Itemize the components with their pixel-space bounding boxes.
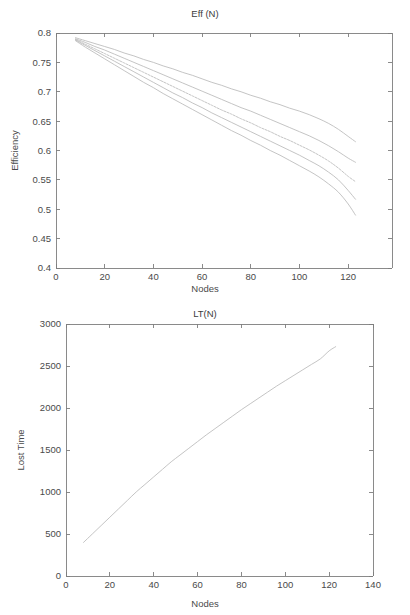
efficiency-y-axis-label: Efficiency <box>9 130 20 171</box>
y-tick-label: 500 <box>45 528 61 539</box>
y-tick-label: 0.45 <box>33 233 52 244</box>
series-curve-5 <box>75 41 355 215</box>
lost-time-figure: LT(N) 0204060801001201400500100015002000… <box>0 300 410 615</box>
efficiency-x-axis-label: Nodes <box>191 283 219 294</box>
x-tick-label: 60 <box>192 579 203 590</box>
efficiency-plot-box <box>56 33 392 268</box>
efficiency-figure: Eff (N) 0204060801001200.40.450.50.550.6… <box>0 0 410 300</box>
x-tick-label: 140 <box>365 579 381 590</box>
series-curve-2 <box>75 39 355 162</box>
y-tick-label: 2000 <box>40 402 61 413</box>
lost-time-plot-box <box>66 324 373 576</box>
efficiency-series-group <box>75 38 355 215</box>
efficiency-chart: Eff (N) 0204060801001200.40.450.50.550.6… <box>0 0 410 300</box>
y-tick-label: 0 <box>56 570 61 581</box>
lost-time-series-group <box>84 347 336 543</box>
x-tick-label: 100 <box>277 579 293 590</box>
x-tick-label: 120 <box>340 271 356 282</box>
efficiency-axis-ticks: 0204060801001200.40.450.50.550.60.650.70… <box>33 27 393 282</box>
x-tick-label: 120 <box>321 579 337 590</box>
series-curve-3 <box>75 39 355 181</box>
x-tick-label: 80 <box>236 579 247 590</box>
y-tick-label: 0.7 <box>38 86 51 97</box>
x-tick-label: 80 <box>245 271 256 282</box>
series-curve-1 <box>75 38 355 142</box>
y-tick-label: 0.55 <box>33 174 52 185</box>
lost-time-chart: LT(N) 0204060801001201400500100015002000… <box>0 300 410 615</box>
y-tick-label: 3000 <box>40 318 61 329</box>
series-curve-4 <box>75 40 355 199</box>
figure-page: Eff (N) 0204060801001200.40.450.50.550.6… <box>0 0 410 615</box>
y-tick-label: 0.75 <box>33 57 52 68</box>
y-tick-label: 0.4 <box>38 262 51 273</box>
series-lost-time <box>84 347 336 543</box>
y-tick-label: 2500 <box>40 360 61 371</box>
x-tick-label: 40 <box>148 579 159 590</box>
lost-time-x-axis-label: Nodes <box>191 598 219 609</box>
y-tick-label: 0.65 <box>33 116 52 127</box>
x-tick-label: 20 <box>105 579 116 590</box>
efficiency-chart-title: Eff (N) <box>191 8 218 19</box>
y-tick-label: 1500 <box>40 444 61 455</box>
x-tick-label: 40 <box>148 271 159 282</box>
lost-time-chart-title: LT(N) <box>193 308 217 319</box>
y-tick-label: 1000 <box>40 486 61 497</box>
x-tick-label: 0 <box>53 271 58 282</box>
x-tick-label: 60 <box>197 271 208 282</box>
y-tick-label: 0.8 <box>38 27 51 38</box>
y-tick-label: 0.6 <box>38 145 51 156</box>
x-tick-label: 100 <box>292 271 308 282</box>
lost-time-y-axis-label: Lost Time <box>15 429 26 470</box>
x-tick-label: 0 <box>63 579 68 590</box>
x-tick-label: 20 <box>99 271 110 282</box>
lost-time-axis-ticks: 0204060801001201400500100015002000250030… <box>40 318 381 590</box>
y-tick-label: 0.5 <box>38 204 51 215</box>
